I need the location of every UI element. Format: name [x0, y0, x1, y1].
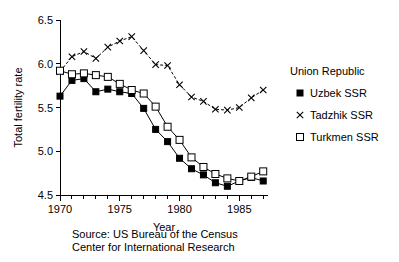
data-point-2-1978: [152, 103, 159, 110]
legend-marker-cross: [297, 112, 303, 118]
data-point-0-1973: [93, 89, 99, 95]
data-point-2-1976: [128, 87, 135, 94]
x-tick-label-1980: 1980: [167, 203, 191, 215]
data-point-2-1985: [236, 178, 243, 185]
x-tick-label-1970: 1970: [48, 203, 72, 215]
data-point-1-1973: [93, 55, 99, 61]
data-point-1-1987: [260, 87, 266, 93]
legend-label-1: Tadzhik SSR: [310, 109, 373, 121]
y-tick-label-4.5: 4.5: [38, 189, 53, 201]
fertility-rate-line-chart: 4.55.05.56.06.51970197519801985YearTotal…: [0, 0, 399, 262]
data-point-0-1970: [57, 93, 63, 99]
source-line-2: Center for International Research: [72, 241, 235, 253]
data-point-0-1971: [69, 77, 75, 83]
data-point-0-1981: [188, 166, 194, 172]
y-tick-label-6.0: 6.0: [38, 58, 53, 70]
data-point-1-1975: [117, 38, 123, 44]
legend-label-2: Turkmen SSR: [310, 131, 379, 143]
data-point-1-1986: [248, 95, 254, 101]
series-line-1: [60, 37, 263, 111]
data-point-2-1982: [200, 164, 207, 171]
data-point-1-1971: [69, 54, 75, 60]
data-point-2-1971: [68, 71, 75, 78]
y-tick-label-6.5: 6.5: [38, 14, 53, 26]
legend-marker-open-square: [297, 134, 304, 141]
data-point-2-1970: [57, 67, 64, 74]
data-point-2-1973: [92, 72, 99, 79]
data-point-2-1974: [104, 73, 111, 80]
data-point-1-1982: [200, 98, 206, 104]
series-turkmen-ssr: [57, 67, 267, 184]
x-tick-label-1975: 1975: [108, 203, 132, 215]
source-note: Source: US Bureau of the CensusCenter fo…: [72, 228, 238, 253]
data-point-2-1980: [176, 136, 183, 143]
data-point-1-1981: [188, 94, 194, 100]
data-point-1-1974: [105, 44, 111, 50]
data-point-2-1987: [260, 168, 267, 175]
chart-figure: 4.55.05.56.06.51970197519801985YearTotal…: [0, 0, 399, 262]
data-point-0-1982: [200, 172, 206, 178]
y-axis-title: Total fertility rate: [12, 67, 24, 147]
legend-marker-filled-square: [297, 90, 303, 96]
data-point-0-1975: [117, 89, 123, 95]
data-point-1-1972: [81, 48, 87, 54]
data-point-0-1984: [224, 183, 230, 189]
data-point-0-1983: [212, 180, 218, 186]
axis-spines: [60, 20, 268, 195]
data-point-2-1981: [188, 154, 195, 161]
data-point-2-1972: [80, 70, 87, 77]
legend: Union RepublicUzbek SSRTadzhik SSRTurkme…: [290, 65, 379, 143]
data-point-2-1983: [212, 171, 219, 178]
series-line-0: [60, 79, 263, 187]
data-point-2-1984: [224, 175, 231, 182]
data-point-2-1975: [116, 80, 123, 87]
legend-label-0: Uzbek SSR: [310, 87, 367, 99]
data-point-1-1980: [176, 82, 182, 88]
data-point-2-1979: [164, 123, 171, 130]
data-point-1-1984: [224, 107, 230, 113]
y-tick-label-5.5: 5.5: [38, 102, 53, 114]
data-point-0-1987: [260, 178, 266, 184]
y-tick-label-5.0: 5.0: [38, 145, 53, 157]
data-point-0-1980: [177, 155, 183, 161]
x-tick-label-1985: 1985: [227, 203, 251, 215]
data-point-2-1977: [140, 90, 147, 97]
series-tadzhik-ssr: [57, 33, 267, 113]
data-point-0-1979: [165, 139, 171, 145]
series-line-2: [60, 71, 263, 181]
data-point-0-1978: [153, 126, 159, 132]
data-point-1-1976: [129, 33, 135, 39]
source-line-1: Source: US Bureau of the Census: [72, 228, 238, 240]
data-point-0-1974: [105, 86, 111, 92]
data-point-0-1977: [141, 105, 147, 111]
data-point-1-1977: [140, 47, 146, 53]
legend-title: Union Republic: [290, 65, 365, 77]
series-uzbek-ssr: [57, 76, 266, 190]
data-point-2-1986: [248, 173, 255, 180]
